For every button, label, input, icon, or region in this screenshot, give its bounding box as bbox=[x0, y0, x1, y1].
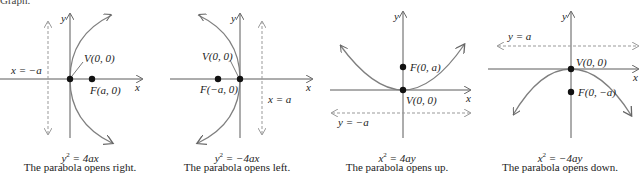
description: The parabola opens left. bbox=[158, 161, 316, 173]
vertex-pointer bbox=[230, 60, 238, 76]
panel-opens-left: y x V(0, 0) F(−a, 0) x = a y2 = −4ax The… bbox=[158, 0, 316, 173]
focus-label: F(−a, 0) bbox=[200, 83, 238, 95]
description: The parabola opens up. bbox=[318, 161, 476, 173]
x-axis-label: x bbox=[633, 71, 638, 83]
focus-point bbox=[215, 76, 221, 82]
directrix-label: y = −a bbox=[338, 116, 369, 128]
x-axis-label: x bbox=[306, 81, 311, 93]
x-axis-label: x bbox=[466, 92, 471, 104]
focus-label: F(0, a) bbox=[410, 61, 441, 73]
focus-point bbox=[89, 76, 95, 82]
parabola-curve-left-arrow bbox=[514, 75, 548, 114]
vertex-label: V(0, 0) bbox=[202, 50, 233, 62]
vertex-point bbox=[400, 87, 406, 93]
y-axis-label: y bbox=[61, 12, 66, 24]
directrix-label: y = a bbox=[508, 30, 531, 42]
focus-point bbox=[400, 64, 406, 70]
focus-point bbox=[568, 89, 574, 95]
y-axis-label: y bbox=[231, 12, 236, 24]
focus-label: F(0, −a) bbox=[578, 86, 616, 98]
parabola-curve-left-arrow bbox=[341, 46, 378, 82]
y-axis-label: y bbox=[394, 10, 399, 22]
focus-label: F(a, 0) bbox=[90, 84, 121, 96]
description: The parabola opens right. bbox=[0, 161, 160, 173]
y-axis-label: y bbox=[562, 10, 567, 22]
vertex-label: V(0, 0) bbox=[84, 52, 115, 64]
panel-opens-right: y x V(0, 0) F(a, 0) x = −a y2 = 4ax The … bbox=[0, 0, 160, 173]
directrix-label: x = −a bbox=[11, 64, 42, 76]
vertex-point bbox=[568, 66, 574, 72]
directrix-label: x = a bbox=[268, 93, 291, 105]
graph-opens-down bbox=[478, 0, 642, 150]
vertex-label: V(0, 0) bbox=[406, 94, 437, 106]
vertex-point bbox=[237, 76, 243, 82]
vertex-point bbox=[67, 76, 73, 82]
vertex-label: V(0, 0) bbox=[576, 56, 607, 68]
x-axis-label: x bbox=[135, 81, 140, 93]
graph-opens-left bbox=[158, 0, 316, 150]
vertex-pointer bbox=[72, 62, 83, 76]
description: The parabola opens down. bbox=[478, 161, 642, 173]
panel-opens-down: y x V(0, 0) F(0, −a) y = a x2 = −4ay The… bbox=[478, 0, 642, 173]
panel-opens-up: y x F(0, a) V(0, 0) y = −a x2 = 4ay The … bbox=[318, 0, 476, 173]
